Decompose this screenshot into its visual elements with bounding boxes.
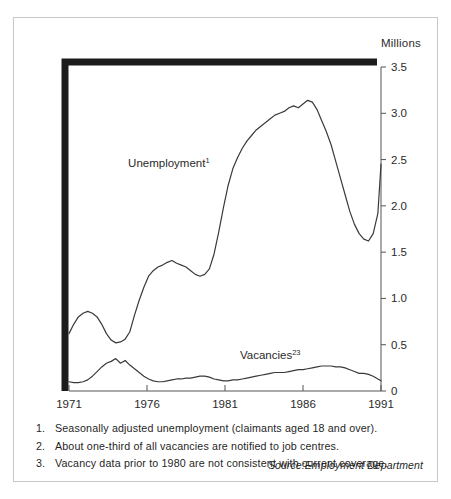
series-line-unemployment xyxy=(69,100,381,343)
vacancies-label: Vacancies23 xyxy=(240,348,301,361)
footnote-text: Seasonally adjusted unemployment (claima… xyxy=(55,422,426,434)
footnote-text: About one-third of all vacancies are not… xyxy=(55,440,426,452)
y-axis-tick-label: 1.5 xyxy=(391,246,407,258)
footnote-number: 3. xyxy=(36,457,55,469)
unemployment-vacancies-line-chart: 00.51.01.52.02.53.03.5197119761981198619… xyxy=(14,18,439,418)
y-axis-tick-label: 0 xyxy=(391,385,397,397)
x-axis-tick-label: 1991 xyxy=(368,398,394,410)
footnote-number: 2. xyxy=(36,440,55,452)
x-axis-tick-label: 1971 xyxy=(56,398,82,410)
source-attribution: Source:Employment Department xyxy=(268,459,423,471)
y-axis-tick-label: 3.0 xyxy=(391,107,407,119)
footnote-item: 2. About one-third of all vacancies are … xyxy=(36,440,426,452)
y-axis-tick-label: 2.0 xyxy=(391,200,407,212)
series-line-vacancies xyxy=(69,359,381,383)
unemployment-label: Unemployment1 xyxy=(128,156,210,169)
chart-plot-area: 00.51.01.52.02.53.03.5197119761981198619… xyxy=(14,18,439,418)
y-axis-tick-label: 3.5 xyxy=(391,61,407,73)
figure-panel: Millions 00.51.01.52.02.53.03.5197119761… xyxy=(13,17,438,482)
footnote-item: 1. Seasonally adjusted unemployment (cla… xyxy=(36,422,426,434)
y-axis-tick-label: 2.5 xyxy=(391,154,407,166)
footnote-number: 1. xyxy=(36,422,55,434)
y-axis-tick-label: 1.0 xyxy=(391,292,407,304)
x-axis-tick-label: 1986 xyxy=(290,398,316,410)
y-axis-tick-label: 0.5 xyxy=(391,339,407,351)
decorative-frame-rule xyxy=(65,62,377,391)
x-axis-tick-label: 1976 xyxy=(134,398,160,410)
x-axis-tick-label: 1981 xyxy=(212,398,238,410)
